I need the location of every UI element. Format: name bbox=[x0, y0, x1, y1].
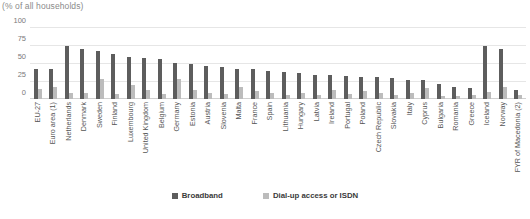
bar-dialup bbox=[146, 90, 150, 99]
x-axis-category-label: Luxembourg bbox=[127, 102, 134, 142]
bar-group bbox=[170, 27, 186, 99]
y-axis-tick-label: 100 bbox=[13, 17, 26, 25]
x-axis-category-label: Italy bbox=[406, 102, 413, 115]
x-axis-category-label: France bbox=[251, 102, 258, 124]
bar-group bbox=[61, 27, 77, 99]
bar-dialup bbox=[69, 93, 73, 99]
x-axis-category: Czech Republic bbox=[371, 100, 387, 180]
bar-group bbox=[278, 27, 294, 99]
x-axis-category-label: Norway bbox=[499, 102, 506, 126]
x-axis-category: Luxembourg bbox=[123, 100, 139, 180]
bar-group bbox=[263, 27, 279, 99]
x-axis-category-label: Slovenia bbox=[220, 102, 227, 130]
bar-dialup bbox=[425, 88, 429, 99]
bar-group bbox=[418, 27, 434, 99]
bar-group bbox=[325, 27, 341, 99]
x-axis-category-label: Austria bbox=[205, 102, 212, 124]
x-axis-category-label: Ireland bbox=[329, 102, 336, 124]
bar-dialup bbox=[115, 94, 119, 99]
bar-dialup bbox=[193, 90, 197, 99]
x-axis-category-label: Netherlands bbox=[65, 102, 72, 141]
x-axis-category: Germany bbox=[170, 100, 186, 180]
bar-dialup bbox=[38, 89, 42, 99]
x-axis-category: Slovakia bbox=[387, 100, 403, 180]
legend-label: Broadband bbox=[182, 192, 223, 200]
bar-dialup bbox=[487, 92, 491, 99]
x-axis-category: Greece bbox=[464, 100, 480, 180]
x-axis-category-label: Czech Republic bbox=[375, 102, 382, 152]
bar-group bbox=[294, 27, 310, 99]
x-axis-category: Romania bbox=[449, 100, 465, 180]
bar-dialup bbox=[100, 79, 104, 99]
bar-dialup bbox=[301, 93, 305, 99]
bar-group bbox=[309, 27, 325, 99]
bar-broadband bbox=[65, 46, 69, 99]
bar-dialup bbox=[472, 95, 476, 99]
bar-group bbox=[495, 27, 511, 99]
x-axis-category-labels: EU-27Euro area (1)NetherlandsDenmarkSwed… bbox=[30, 100, 526, 180]
bar-group bbox=[340, 27, 356, 99]
x-axis-category-label: Lithuania bbox=[282, 102, 289, 131]
legend-swatch-dialup bbox=[263, 193, 269, 199]
x-axis-category-label: Poland bbox=[360, 102, 367, 124]
x-axis-category-label: Euro area (1) bbox=[50, 102, 57, 144]
x-axis-category-label: EU-27 bbox=[34, 102, 41, 122]
x-axis-category: Sweden bbox=[92, 100, 108, 180]
bar-group bbox=[216, 27, 232, 99]
chart-legend: BroadbandDial-up access or ISDN bbox=[0, 192, 530, 200]
y-axis-labels: 1007550250 bbox=[0, 21, 26, 105]
x-axis-category: Bulgaria bbox=[433, 100, 449, 180]
x-axis-category: Portugal bbox=[340, 100, 356, 180]
legend-item-dialup[interactable]: Dial-up access or ISDN bbox=[263, 192, 358, 200]
bar-group bbox=[480, 27, 496, 99]
bar-group bbox=[139, 27, 155, 99]
x-axis-category: Iceland bbox=[480, 100, 496, 180]
x-axis-category: Malta bbox=[232, 100, 248, 180]
x-axis-category: Cyprus bbox=[418, 100, 434, 180]
bar-dialup bbox=[503, 87, 507, 99]
bar-broadband bbox=[111, 54, 115, 99]
bar-group bbox=[46, 27, 62, 99]
bar-groups bbox=[30, 27, 526, 99]
x-axis-category: Hungary bbox=[294, 100, 310, 180]
bar-dialup bbox=[441, 96, 445, 99]
y-axis-tick-label: 50 bbox=[18, 53, 26, 61]
x-axis-category-label: Iceland bbox=[484, 102, 491, 125]
y-axis-tick-label: 0 bbox=[22, 89, 26, 97]
bar-group bbox=[123, 27, 139, 99]
x-axis-category: Italy bbox=[402, 100, 418, 180]
x-axis-category-label: Sweden bbox=[96, 102, 103, 128]
bar-dialup bbox=[363, 91, 367, 99]
x-axis-category-label: Estonia bbox=[189, 102, 196, 126]
legend-swatch-broadband bbox=[172, 193, 178, 199]
x-axis-category: EU-27 bbox=[30, 100, 46, 180]
bar-group bbox=[154, 27, 170, 99]
legend-item-broadband[interactable]: Broadband bbox=[172, 192, 223, 200]
bar-dialup bbox=[255, 91, 259, 99]
bar-dialup bbox=[162, 94, 166, 99]
x-axis-category: Netherlands bbox=[61, 100, 77, 180]
x-axis-category-label: Slovakia bbox=[391, 102, 398, 129]
x-axis-category: Euro area (1) bbox=[46, 100, 62, 180]
bar-group bbox=[511, 27, 527, 99]
bar-dialup bbox=[208, 93, 212, 99]
bar-dialup bbox=[518, 95, 522, 99]
bar-group bbox=[232, 27, 248, 99]
bar-dialup bbox=[456, 96, 460, 99]
bar-dialup bbox=[84, 93, 88, 99]
bar-group bbox=[449, 27, 465, 99]
bar-group bbox=[402, 27, 418, 99]
x-axis-category-label: Malta bbox=[236, 102, 243, 120]
x-axis-category: Slovenia bbox=[216, 100, 232, 180]
x-axis-category: Denmark bbox=[77, 100, 93, 180]
bar-chart: (% of all households) 1007550250 EU-27Eu… bbox=[0, 0, 530, 219]
x-axis-category-label: United Kingdom bbox=[143, 102, 150, 153]
bar-group bbox=[247, 27, 263, 99]
bar-dialup bbox=[332, 90, 336, 99]
x-axis-category-label: Portugal bbox=[344, 102, 351, 129]
x-axis-category: Poland bbox=[356, 100, 372, 180]
x-axis-category: Estonia bbox=[185, 100, 201, 180]
x-axis-category-label: Denmark bbox=[81, 102, 88, 131]
x-axis-category: Belgium bbox=[154, 100, 170, 180]
bar-group bbox=[185, 27, 201, 99]
